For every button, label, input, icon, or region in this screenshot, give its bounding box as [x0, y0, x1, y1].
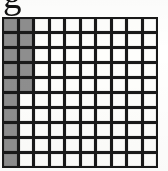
clipped-glyph-strip: g	[0, 0, 168, 16]
grid-cell	[144, 124, 157, 139]
grid-cell	[35, 124, 51, 139]
grid-cell	[128, 79, 144, 94]
grid-cell	[51, 64, 67, 79]
grid-cell	[20, 124, 36, 139]
grid-cell	[51, 109, 67, 124]
grid-cell	[113, 94, 129, 109]
grid-cell	[97, 79, 113, 94]
grid-cell	[128, 94, 144, 109]
grid-cell	[51, 154, 67, 166]
grid-cell	[66, 19, 82, 34]
grid-cell	[97, 34, 113, 49]
grid-cell	[4, 64, 20, 79]
grid-cell	[97, 49, 113, 64]
grid-cell	[128, 34, 144, 49]
grid-cell	[82, 139, 98, 154]
grid-cell	[35, 139, 51, 154]
grid-cell	[144, 94, 157, 109]
grid-body	[4, 19, 156, 166]
grid-cell	[66, 154, 82, 166]
grid-cell	[51, 79, 67, 94]
grid-cell	[128, 49, 144, 64]
grid-cell	[35, 94, 51, 109]
grid-cell	[82, 154, 98, 166]
grid-cell	[97, 124, 113, 139]
shaded-grid	[2, 17, 158, 168]
grid-container	[2, 17, 158, 171]
grid-cell	[66, 124, 82, 139]
grid-row	[4, 64, 156, 79]
grid-cell	[51, 34, 67, 49]
grid-cell	[113, 19, 129, 34]
grid-cell	[82, 64, 98, 79]
grid-cell	[97, 139, 113, 154]
grid-cell	[4, 49, 20, 64]
grid-cell	[82, 34, 98, 49]
grid-cell	[51, 124, 67, 139]
grid-cell	[144, 139, 157, 154]
grid-cell	[51, 94, 67, 109]
grid-cell	[113, 79, 129, 94]
grid-cell	[4, 79, 20, 94]
grid-cell	[144, 79, 157, 94]
clipped-glyph-text: g	[3, 0, 43, 14]
grid-row	[4, 139, 156, 154]
grid-cell	[66, 34, 82, 49]
grid-cell	[82, 19, 98, 34]
grid-cell	[4, 34, 20, 49]
grid-cell	[4, 19, 20, 34]
grid-cell	[128, 109, 144, 124]
grid-cell	[128, 64, 144, 79]
grid-cell	[128, 154, 144, 166]
clipped-glyph-clip: g	[3, 0, 43, 16]
grid-cell	[82, 109, 98, 124]
grid-cell	[97, 64, 113, 79]
grid-cell	[66, 109, 82, 124]
grid-cell	[51, 19, 67, 34]
grid-cell	[66, 49, 82, 64]
grid-cell	[20, 109, 36, 124]
grid-row	[4, 109, 156, 124]
grid-cell	[113, 154, 129, 166]
grid-cell	[20, 154, 36, 166]
grid-cell	[113, 124, 129, 139]
grid-cell	[4, 94, 20, 109]
page-root: g	[0, 0, 168, 171]
grid-row	[4, 79, 156, 94]
grid-cell	[113, 139, 129, 154]
grid-cell	[20, 79, 36, 94]
grid-cell	[128, 124, 144, 139]
grid-cell	[82, 124, 98, 139]
grid-cell	[4, 109, 20, 124]
grid-cell	[66, 94, 82, 109]
grid-cell	[144, 64, 157, 79]
grid-cell	[4, 154, 20, 166]
grid-cell	[51, 49, 67, 64]
grid-cell	[82, 79, 98, 94]
grid-cell	[144, 19, 157, 34]
grid-cell	[35, 154, 51, 166]
grid-cell	[144, 49, 157, 64]
grid-cell	[35, 49, 51, 64]
grid-row	[4, 34, 156, 49]
grid-cell	[113, 34, 129, 49]
grid-cell	[20, 49, 36, 64]
grid-cell	[113, 109, 129, 124]
grid-cell	[97, 19, 113, 34]
grid-cell	[66, 79, 82, 94]
grid-cell	[113, 64, 129, 79]
grid-cell	[97, 109, 113, 124]
grid-cell	[128, 19, 144, 34]
grid-row	[4, 154, 156, 166]
grid-cell	[144, 34, 157, 49]
grid-row	[4, 49, 156, 64]
grid-cell	[66, 64, 82, 79]
grid-cell	[35, 109, 51, 124]
grid-cell	[4, 139, 20, 154]
grid-cell	[97, 94, 113, 109]
grid-cell	[97, 154, 113, 166]
grid-cell	[144, 154, 157, 166]
grid-cell	[35, 64, 51, 79]
grid-cell	[4, 124, 20, 139]
grid-row	[4, 124, 156, 139]
